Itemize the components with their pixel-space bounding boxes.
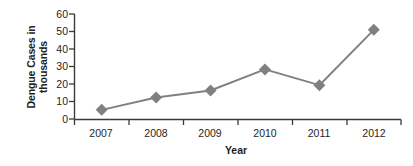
data-point-2008: [150, 92, 162, 104]
data-point-2007: [96, 104, 108, 116]
data-point-2009: [205, 84, 217, 96]
x-tick-label-2012: 2012: [351, 128, 397, 139]
x-tick-label-2007: 2007: [78, 128, 124, 139]
y-axis-ticks: [69, 14, 75, 119]
x-axis-ticks: [75, 120, 402, 126]
series-line-dengue-cases: [102, 30, 374, 110]
data-point-2010: [259, 63, 271, 75]
x-tick-label-2009: 2009: [187, 128, 233, 139]
x-axis-title: Year: [70, 144, 402, 156]
dengue-cases-line-chart: Dengue Cases in thousands 60 50 40 30 20…: [0, 0, 413, 166]
x-tick-label-2011: 2011: [296, 128, 342, 139]
x-tick-label-2008: 2008: [133, 128, 179, 139]
plot-area: [0, 0, 413, 166]
x-tick-label-2010: 2010: [242, 128, 288, 139]
